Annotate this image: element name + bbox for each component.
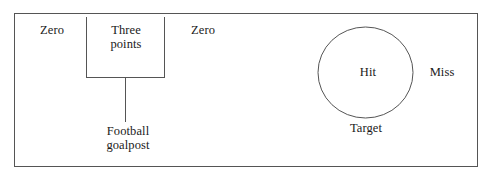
diagram-figure: Zero Three points Zero Football goalpost… [0, 0, 494, 181]
label-zero-right: Zero [173, 23, 233, 37]
label-target: Target [336, 121, 396, 135]
label-zero-left: Zero [22, 23, 82, 37]
label-three-points: Three points [96, 23, 156, 51]
label-hit: Hit [348, 65, 388, 79]
outer-border [15, 14, 478, 167]
label-miss: Miss [420, 65, 464, 79]
label-football-goalpost: Football goalpost [88, 124, 168, 152]
